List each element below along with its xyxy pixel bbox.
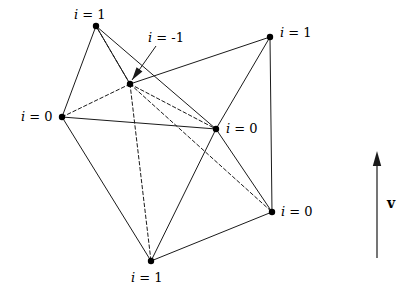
dashed-edge-in-tl [96,26,130,84]
mesh-diagram [0,0,413,297]
bottom-right-vertex-dot [269,209,275,215]
interior-vertex-dot [127,81,133,87]
dashed-edge-in-bt [130,84,151,261]
edge-cr-br [216,129,272,212]
bottom-vertex-dot [148,258,154,264]
dashed-edge-group [62,26,272,261]
direction-arrow-group [373,151,381,258]
edge-lf-cr [62,117,216,129]
top-right-vertex-dot [267,34,273,40]
edge-tr-br [270,37,272,212]
edge-cr-bt [151,129,216,261]
left-vertex-dot [59,114,65,120]
bottom-right-vertex-label: i = 0 [281,205,313,218]
top-right-vertex-label: i = 1 [280,26,312,39]
direction-arrow-label: v [387,196,395,210]
dashed-edge-in-br [130,84,272,212]
top-left-vertex-dot [93,23,99,29]
direction-arrow-head [373,151,381,166]
interior-vertex-pointer-arrow-head [132,67,142,80]
edge-tr-cr [216,37,270,129]
edge-lf-bt [62,117,151,261]
left-vertex-label: i = 0 [21,110,53,123]
interior-vertex-label: i = -1 [148,31,184,44]
center-right-vertex-dot [213,126,219,132]
figure-root: i = 1i = 1i = 0i = 0i = 0i = 1i = -1v [0,0,413,297]
solid-edge-group [62,26,272,261]
bottom-vertex-label: i = 1 [131,271,163,284]
edge-br-bt [151,212,272,261]
top-left-vertex-label: i = 1 [74,8,106,21]
center-right-vertex-label: i = 0 [226,122,258,135]
